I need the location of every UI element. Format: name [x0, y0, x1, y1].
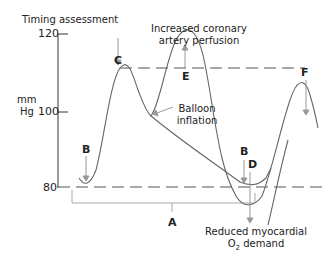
diagram-title: Timing assessment	[22, 14, 118, 25]
arrow-b1-head	[83, 176, 89, 181]
reduced-demand-line2: O2 demand	[200, 238, 312, 254]
marker-b2: B	[240, 145, 248, 158]
balloon-inflation-line2: inflation	[172, 115, 222, 127]
marker-c: C	[114, 54, 122, 67]
marker-d: D	[248, 158, 257, 171]
increased-perfusion-line2: artery perfusion	[144, 35, 254, 47]
o2-demand-text: demand	[240, 238, 284, 249]
marker-e: E	[182, 70, 190, 83]
marker-f: F	[301, 66, 309, 79]
arrow-d-head	[247, 218, 253, 223]
reduced-demand-label: Reduced myocardial O2 demand	[200, 226, 312, 254]
arrow-balloon	[157, 107, 173, 113]
marker-b1: B	[82, 143, 90, 156]
increased-perfusion-label: Increased coronary artery perfusion	[144, 23, 254, 47]
next-beat-upstroke	[268, 140, 288, 225]
balloon-inflation-line1: Balloon	[172, 103, 222, 115]
reduced-demand-line1: Reduced myocardial	[200, 226, 312, 238]
marker-a: A	[168, 216, 177, 229]
unit-hg: Hg	[20, 106, 34, 117]
tick-label-80: 80	[43, 181, 57, 194]
increased-perfusion-line1: Increased coronary	[144, 23, 254, 35]
o2-o: O	[228, 238, 236, 249]
arrow-f-head	[303, 110, 309, 115]
unit-mm: mm	[17, 94, 36, 105]
bracket-a	[72, 190, 255, 203]
tick-label-120: 120	[38, 27, 59, 40]
balloon-inflation-label: Balloon inflation	[172, 103, 222, 127]
tick-label-100: 100	[38, 105, 59, 118]
